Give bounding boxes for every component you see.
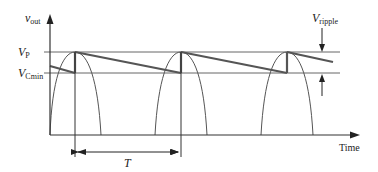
y-axis-arrow-icon	[47, 14, 54, 24]
period-label: T	[124, 156, 132, 170]
cap-decay-3	[287, 52, 333, 62]
vp-label: VP	[18, 45, 30, 60]
period-arrow-right-head	[170, 149, 179, 155]
period-arrow-left-head	[77, 149, 86, 155]
cap-decay-0	[50, 66, 75, 73]
ripple-label: Vripple	[312, 11, 338, 26]
ripple-arrow-up-icon	[319, 74, 325, 82]
vcmin-label: VCmin	[18, 66, 43, 81]
y-axis-label: vout	[25, 11, 41, 26]
ripple-diagram: vout VP VCmin Vripple T Time	[0, 0, 378, 172]
x-axis-arrow-icon	[350, 132, 360, 139]
x-axis-label: Time	[339, 142, 360, 153]
ripple-arrow-down-icon	[319, 44, 325, 52]
